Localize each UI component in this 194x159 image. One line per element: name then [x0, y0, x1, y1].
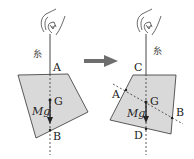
- string-label: 糸: [153, 45, 162, 56]
- point-d-label: D: [134, 129, 143, 142]
- point-a-label: A: [111, 88, 121, 101]
- point-b: [171, 117, 173, 119]
- point-d: [145, 128, 147, 130]
- point-b-label: B: [176, 106, 184, 119]
- point-a-label: A: [52, 61, 62, 74]
- point-b-label: B: [53, 130, 61, 143]
- diagram-canvas: 糸 A G Mg B 糸 C A G: [0, 0, 194, 159]
- force-label: Mg: [31, 105, 50, 118]
- hand-icon: [41, 9, 65, 35]
- right-panel: 糸 C A G Mg B D: [110, 9, 184, 155]
- plate: [110, 75, 176, 134]
- point-a: [125, 89, 127, 91]
- point-c-label: C: [134, 61, 142, 74]
- left-panel: 糸 A G Mg B: [18, 9, 88, 155]
- point-b: [49, 129, 51, 131]
- point-g-label: G: [150, 95, 159, 108]
- string-label: 糸: [33, 48, 42, 59]
- point-g-label: G: [54, 95, 63, 108]
- right-arrow-icon: [84, 55, 118, 67]
- plate: [18, 74, 88, 138]
- hand-icon: [137, 9, 161, 35]
- force-label: Mg: [126, 107, 145, 120]
